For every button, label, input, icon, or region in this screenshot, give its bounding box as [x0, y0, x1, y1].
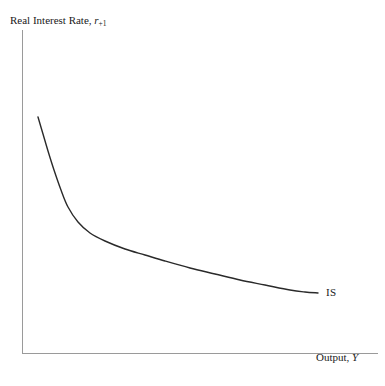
- y-axis-label: Real Interest Rate, r+1: [10, 15, 107, 28]
- chart-canvas: [0, 0, 385, 386]
- x-axis-label: Output, Y: [316, 352, 358, 363]
- y-axis-label-subscript: +1: [99, 19, 107, 28]
- y-axis-label-text: Real Interest Rate,: [10, 14, 94, 26]
- x-axis-label-symbol: Y: [352, 351, 358, 363]
- is-curve-line: [38, 117, 318, 293]
- is-curve-label: IS: [326, 286, 336, 298]
- is-curve-figure: Real Interest Rate, r+1 Output, Y IS: [0, 0, 385, 386]
- x-axis-label-text: Output,: [316, 351, 352, 363]
